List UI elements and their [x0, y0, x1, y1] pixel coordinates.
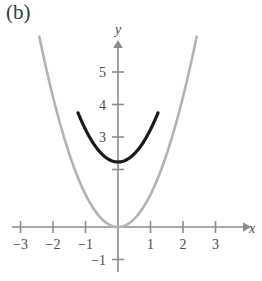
- x-tick-label-2: 2: [180, 237, 187, 252]
- x-tick-label-1: 1: [147, 237, 154, 252]
- y-tick-label-3: 3: [99, 130, 106, 145]
- y-tick-label--1: −1: [91, 253, 106, 268]
- y-axis-arrowhead: [113, 40, 123, 48]
- x-axis-label: x: [248, 221, 256, 236]
- x-tick-label--2: −2: [46, 237, 61, 252]
- y-axis-label: y: [113, 22, 122, 37]
- figure-panel: (b): [0, 0, 262, 281]
- y-tick-label-5: 5: [99, 65, 106, 80]
- x-tick-label--3: −3: [13, 237, 28, 252]
- x-tick-label-3: 3: [212, 237, 219, 252]
- y-axis: [113, 40, 123, 272]
- parabola-plot: −3 −2 −1 1 2 3 5 4 3 −1 x y: [0, 0, 262, 281]
- x-tick-label--1: −1: [78, 237, 93, 252]
- y-tick-label-4: 4: [99, 98, 106, 113]
